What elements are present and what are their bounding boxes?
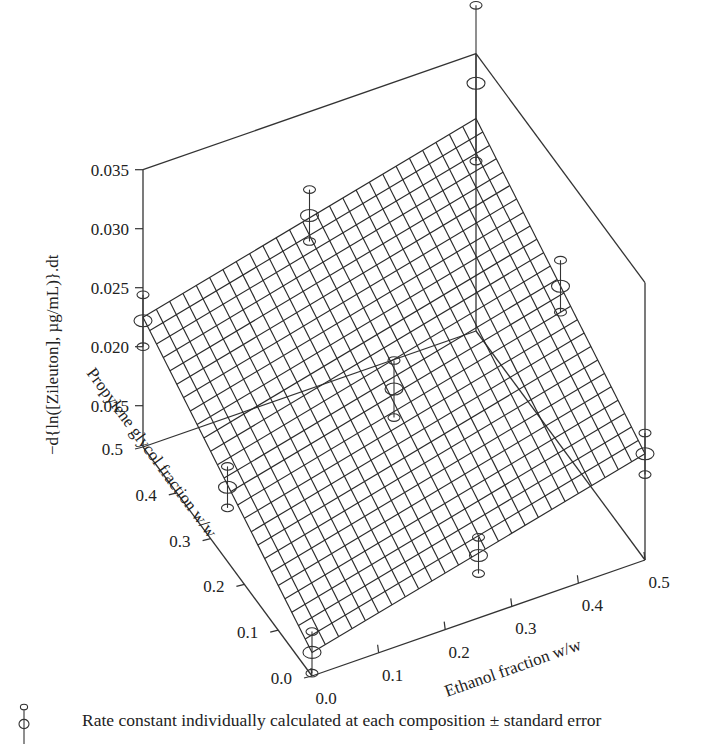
ethanol-tick-label: 0.4 bbox=[582, 596, 604, 615]
z-tick-label: 0.025 bbox=[91, 279, 129, 298]
legend-label: Rate constant individually calculated at… bbox=[82, 710, 601, 731]
pg-tick-label: 0.3 bbox=[169, 532, 190, 551]
ethanol-tick bbox=[577, 575, 578, 583]
pg-tick-label: 0.0 bbox=[271, 669, 292, 688]
ethanol-tick-label: 0.2 bbox=[449, 643, 470, 662]
ethanol-tick bbox=[378, 645, 379, 653]
z-tick-label: 0.035 bbox=[91, 161, 129, 180]
pg-tick-label: 0.4 bbox=[136, 486, 158, 505]
z-tick-label: 0.030 bbox=[91, 220, 129, 239]
z-tick-label: 0.020 bbox=[91, 338, 129, 357]
pg-tick bbox=[236, 584, 244, 586]
z-axis-title: −d{ln([Zileuton], µg/mL)}.dt bbox=[43, 254, 62, 455]
pg-tick-label: 0.2 bbox=[203, 577, 224, 596]
ethanol-tick bbox=[444, 622, 445, 630]
ethanol-tick bbox=[511, 598, 512, 606]
pg-tick bbox=[270, 630, 278, 632]
pg-tick-label: 0.5 bbox=[102, 440, 123, 459]
pg-tick-label: 0.1 bbox=[237, 623, 258, 642]
ethanol-tick-label: 0.1 bbox=[382, 666, 403, 685]
legend: Rate constant individually calculated at… bbox=[14, 700, 714, 746]
ethanol-tick-label: 0.3 bbox=[515, 619, 536, 638]
errorbar-icon bbox=[14, 700, 34, 746]
ethanol-tick-label: 0.5 bbox=[648, 573, 669, 592]
surface-chart: 0.0150.0200.0250.0300.0350.00.10.20.30.4… bbox=[0, 0, 717, 751]
